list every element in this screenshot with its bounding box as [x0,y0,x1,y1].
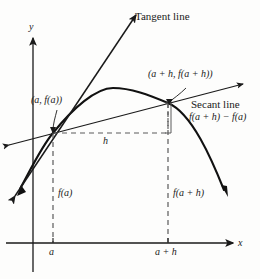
curve-right-arrowhead [221,185,228,197]
secant-point-label: (a + h, f(a + h)) [148,69,213,79]
f-of-a-label: f(a) [58,188,72,198]
x-tick-label-a-plus-h: a + h [155,247,177,257]
tangent-secant-figure: Tangent line (a + h, f(a + h)) Secant li… [0,0,260,279]
tangent-line-label: Tangent line [135,11,190,22]
diagram-canvas [0,0,260,279]
tangent-point-label: (a, f(a)) [31,95,62,105]
x-axis-label: x [238,238,242,248]
y-axis-label: y [29,22,33,32]
f-of-a-plus-h-label: f(a + h) [173,188,204,198]
secant-line-label: Secant line [191,99,240,110]
x-tick-label-a: a [49,247,54,257]
rise-label: f(a + h) − f(a) [189,112,246,122]
run-label: h [103,136,108,146]
